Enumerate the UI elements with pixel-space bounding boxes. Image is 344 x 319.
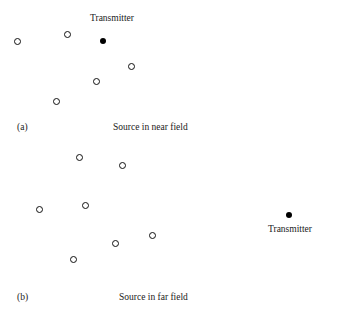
panel-a-letter: (a) [17, 121, 28, 133]
panel-b-sensor-marker [112, 240, 119, 247]
panel-a-transmitter-label: Transmitter [90, 13, 134, 24]
panel-b-transmitter-label: Transmitter [268, 224, 312, 235]
panel-a-sensor-marker [14, 38, 21, 45]
panel-b-sensor-marker [119, 162, 126, 169]
panel-b-caption: Source in far field [119, 291, 188, 303]
panel-b-sensor-marker [149, 232, 156, 239]
panel-b-sensor-marker [76, 154, 83, 161]
panel-a-sensor-marker [128, 63, 135, 70]
panel-a-caption: Source in near field [113, 121, 188, 133]
figure-root: Transmitter (a) Source in near field [0, 0, 344, 319]
panel-b-sensor-marker [82, 202, 89, 209]
panel-b-letter: (b) [17, 291, 28, 303]
panel-a-sensor-marker [53, 98, 60, 105]
panel-a-transmitter-marker [100, 38, 106, 44]
panel-b-sensor-marker [70, 256, 77, 263]
panel-b-sensor-marker [36, 206, 43, 213]
panel-b-transmitter-marker [286, 212, 292, 218]
panel-a-sensor-marker [93, 78, 100, 85]
panel-a-sensor-marker [64, 31, 71, 38]
